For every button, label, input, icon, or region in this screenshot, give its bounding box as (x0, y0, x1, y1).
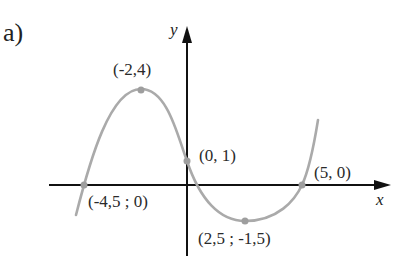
function-graph (0, 0, 396, 267)
y-axis-arrow-icon (182, 26, 192, 43)
label-root-left: (-4,5 ; 0) (88, 192, 148, 212)
y-axis (182, 26, 192, 256)
x-axis-label: x (376, 190, 384, 210)
point-local-max (138, 87, 145, 94)
point-root-right (299, 182, 306, 189)
label-root-right: (5, 0) (314, 163, 351, 183)
label-local-min: (2,5 ; -1,5) (198, 229, 271, 249)
point-local-min (242, 218, 249, 225)
y-axis-label: y (170, 20, 178, 40)
x-axis-arrow-icon (374, 180, 391, 190)
label-y-intercept: (0, 1) (199, 146, 236, 166)
point-root-left (81, 182, 88, 189)
point-y-intercept (184, 158, 191, 165)
label-local-max: (-2,4) (113, 60, 151, 80)
